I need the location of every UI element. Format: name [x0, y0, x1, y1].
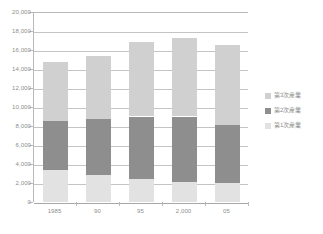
x-axis-tick	[162, 202, 163, 206]
x-axis-label: 05	[207, 208, 247, 215]
bar-segment[interactable]	[215, 45, 240, 125]
legend-item[interactable]: 第1次産業	[265, 118, 321, 133]
bar-group[interactable]	[215, 12, 240, 202]
y-axis-label: 2,000	[0, 180, 31, 186]
bar-segment[interactable]	[43, 170, 68, 202]
bar-segment[interactable]	[172, 38, 197, 117]
legend-label: 第2次産業	[274, 107, 301, 114]
x-axis-tick	[119, 202, 120, 206]
y-axis-label: 0	[0, 199, 31, 205]
bar-segment[interactable]	[86, 119, 111, 175]
chart-legend: 第3次産業第2次産業第1次産業	[265, 88, 321, 133]
bar-group[interactable]	[129, 12, 154, 202]
bar-segment[interactable]	[172, 182, 197, 202]
legend-swatch-icon	[265, 93, 271, 99]
y-axis-label: 16,000	[0, 47, 31, 53]
legend-item[interactable]: 第3次産業	[265, 88, 321, 103]
legend-item[interactable]: 第2次産業	[265, 103, 321, 118]
gridline	[34, 203, 248, 204]
x-axis-tick	[248, 202, 249, 206]
bar-segment[interactable]	[129, 117, 154, 180]
y-axis-label: 10,000	[0, 104, 31, 110]
stacked-bar-chart: 02,0004,0006,0008,00010,00012,00014,0001…	[0, 0, 323, 234]
bar-group[interactable]	[172, 12, 197, 202]
y-axis-label: 6,000	[0, 142, 31, 148]
y-axis-label: 18,000	[0, 28, 31, 34]
bar-segment[interactable]	[43, 121, 68, 169]
bar-segment[interactable]	[129, 42, 154, 116]
plot-area	[33, 12, 248, 202]
legend-label: 第1次産業	[274, 122, 301, 129]
x-axis-label: 90	[78, 208, 118, 215]
x-axis-label: 1985	[35, 208, 75, 215]
bar-segment[interactable]	[86, 175, 111, 202]
legend-label: 第3次産業	[274, 92, 301, 99]
y-axis-label: 14,000	[0, 66, 31, 72]
bar-segment[interactable]	[129, 179, 154, 202]
bar-segment[interactable]	[172, 117, 197, 183]
y-axis-label: 8,000	[0, 123, 31, 129]
bar-segment[interactable]	[43, 62, 68, 121]
y-axis-label: 20,000	[0, 9, 31, 15]
y-axis-label: 4,000	[0, 161, 31, 167]
bar-segment[interactable]	[86, 56, 111, 120]
x-axis-tick	[205, 202, 206, 206]
x-axis-tick	[76, 202, 77, 206]
legend-swatch-icon	[265, 123, 271, 129]
bar-group[interactable]	[43, 12, 68, 202]
x-axis-label: 2,000	[164, 208, 204, 215]
bar-segment[interactable]	[215, 125, 240, 183]
bar-group[interactable]	[86, 12, 111, 202]
legend-swatch-icon	[265, 108, 271, 114]
y-axis-label: 12,000	[0, 85, 31, 91]
bar-segment[interactable]	[215, 183, 240, 202]
x-axis-label: 95	[121, 208, 161, 215]
